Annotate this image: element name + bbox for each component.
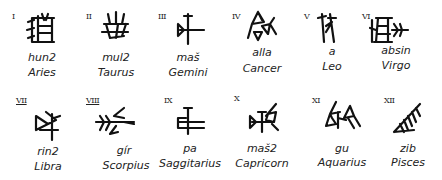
- cuneiform-mul-icon: [98, 10, 134, 44]
- zodiac-name: Aquarius: [306, 156, 378, 169]
- cuneiform-hun-icon: [24, 12, 60, 46]
- cuneiform-pa-icon: [174, 104, 210, 138]
- zodiac-name: Taurus: [80, 66, 152, 79]
- transliteration: gu: [306, 142, 378, 155]
- zodiac-name: Saggitarius: [154, 157, 226, 170]
- numeral-label: IX: [164, 96, 172, 105]
- sign-cell-pisces: XII zib Pisces: [370, 90, 442, 180]
- sign-cell-virgo: VI absin Virgo: [362, 0, 434, 90]
- sign-cell-saggitarius: IX pa Saggitarius: [150, 90, 222, 180]
- cuneiform-mas2-icon: [246, 102, 282, 136]
- sign-cell-taurus: II mul2 Taurus: [76, 0, 148, 90]
- cuneiform-gu-icon: [322, 100, 366, 134]
- transliteration: absin: [360, 44, 432, 57]
- sign-cell-libra: VII rin2 Libra: [2, 90, 74, 180]
- numeral-label: I: [12, 12, 15, 21]
- numeral-label: XI: [312, 96, 320, 105]
- sign-cell-cancer: IV alla Cancer: [222, 0, 294, 90]
- transliteration: maš: [152, 51, 224, 64]
- transliteration: rin2: [12, 145, 84, 158]
- cuneiform-mas-icon: [172, 12, 208, 46]
- numeral-label: X: [234, 94, 239, 103]
- zodiac-name: Aries: [6, 66, 78, 79]
- transliteration: mul2: [80, 51, 152, 64]
- sign-cell-scorpius: VIII gír Scorpius: [76, 90, 148, 180]
- sign-cell-leo: V a Leo: [296, 0, 368, 90]
- zodiac-name: Pisces: [372, 156, 442, 169]
- zodiac-name: Cancer: [226, 62, 298, 75]
- numeral-label: V: [304, 12, 309, 21]
- zodiac-name: Virgo: [360, 59, 432, 72]
- zodiac-name: Leo: [296, 60, 368, 73]
- transliteration: alla: [226, 46, 298, 59]
- cuneiform-gir-icon: [94, 104, 138, 138]
- numeral-label: III: [158, 12, 166, 21]
- cuneiform-a-icon: [312, 12, 348, 46]
- cuneiform-alla-icon: [244, 10, 280, 44]
- zodiac-name: Gemini: [152, 66, 224, 79]
- transliteration: zib: [372, 142, 442, 155]
- sign-cell-gemini: III maš Gemini: [150, 0, 222, 90]
- transliteration: a: [296, 45, 368, 58]
- cuneiform-absin-icon: [366, 14, 410, 48]
- zodiac-name: Capricorn: [226, 157, 298, 170]
- sign-cell-capricorn: X maš2 Capricorn: [222, 90, 294, 180]
- sign-cell-aquarius: XI gu Aquarius: [296, 90, 368, 180]
- cuneiform-zib-icon: [390, 102, 426, 136]
- zodiac-name: Libra: [12, 160, 84, 173]
- cuneiform-rin-icon: [32, 110, 68, 144]
- numeral-label: IV: [232, 12, 240, 21]
- transliteration: maš2: [226, 142, 298, 155]
- transliteration: pa: [154, 142, 226, 155]
- numeral-label: II: [86, 12, 91, 21]
- sign-cell-aries: I hun2 Aries: [2, 0, 74, 90]
- transliteration: hun2: [6, 51, 78, 64]
- numeral-label: VII: [16, 96, 27, 105]
